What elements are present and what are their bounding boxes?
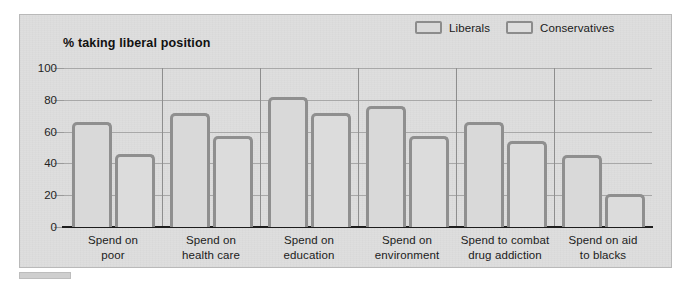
bar-conservatives-1: [213, 136, 253, 227]
bar-conservatives-4: [507, 141, 547, 227]
x-axis-label-0: Spend onpoor: [64, 233, 162, 263]
x-axis-label-line: Spend on: [358, 233, 456, 248]
legend-label-liberals: Liberals: [449, 22, 490, 34]
bar-liberals-3: [366, 106, 406, 227]
bar-liberals-5: [562, 155, 602, 227]
bar-conservatives-2: [311, 113, 351, 227]
x-axis-label-4: Spend to combatdrug addiction: [456, 233, 554, 263]
x-axis-label-line: Spend on aid: [554, 233, 652, 248]
bar-conservatives-5: [605, 194, 645, 227]
x-axis-label-line: drug addiction: [456, 248, 554, 263]
legend-swatch-conservatives: [506, 21, 533, 34]
legend-item-conservatives: Conservatives: [506, 21, 614, 34]
chart-title: % taking liberal position: [63, 36, 211, 50]
x-axis-label-line: environment: [358, 248, 456, 263]
x-axis-labels: Spend onpoorSpend onhealth careSpend one…: [64, 233, 652, 273]
x-axis-label-1: Spend onhealth care: [162, 233, 260, 263]
x-axis-label-5: Spend on aidto blacks: [554, 233, 652, 263]
bar-conservatives-3: [409, 136, 449, 227]
legend-item-liberals: Liberals: [415, 21, 490, 34]
y-tick-label-40: 40: [44, 157, 57, 169]
x-axis-label-line: Spend to combat: [456, 233, 554, 248]
figure-container: Liberals Conservatives % taking liberal …: [0, 0, 691, 281]
x-axis-label-line: Spend on: [260, 233, 358, 248]
legend-swatch-liberals: [415, 21, 442, 34]
bar-liberals-1: [170, 113, 210, 227]
x-axis-label-line: poor: [64, 248, 162, 263]
group-separator-2: [260, 68, 261, 227]
group-separator-4: [456, 68, 457, 227]
chart-legend: Liberals Conservatives: [415, 21, 614, 34]
x-axis-label-line: health care: [162, 248, 260, 263]
group-separator-1: [162, 68, 163, 227]
x-axis-label-3: Spend onenvironment: [358, 233, 456, 263]
group-separator-3: [358, 68, 359, 227]
bar-conservatives-0: [115, 154, 155, 227]
x-axis-label-2: Spend oneducation: [260, 233, 358, 263]
legend-label-conservatives: Conservatives: [540, 22, 614, 34]
y-tick-label-80: 80: [44, 94, 57, 106]
bar-liberals-4: [464, 122, 504, 227]
x-axis-label-line: to blacks: [554, 248, 652, 263]
y-tick-label-0: 0: [51, 221, 57, 233]
x-axis-label-line: Spend on: [162, 233, 260, 248]
y-tick-label-60: 60: [44, 126, 57, 138]
bar-liberals-2: [268, 97, 308, 227]
x-axis-label-line: education: [260, 248, 358, 263]
y-tick-label-100: 100: [38, 62, 57, 74]
scan-artifact: [19, 272, 71, 279]
plot-area: 100806040200: [64, 68, 652, 227]
group-separator-5: [554, 68, 555, 227]
x-axis-label-line: Spend on: [64, 233, 162, 248]
y-tick-label-20: 20: [44, 189, 57, 201]
bar-liberals-0: [72, 122, 112, 227]
